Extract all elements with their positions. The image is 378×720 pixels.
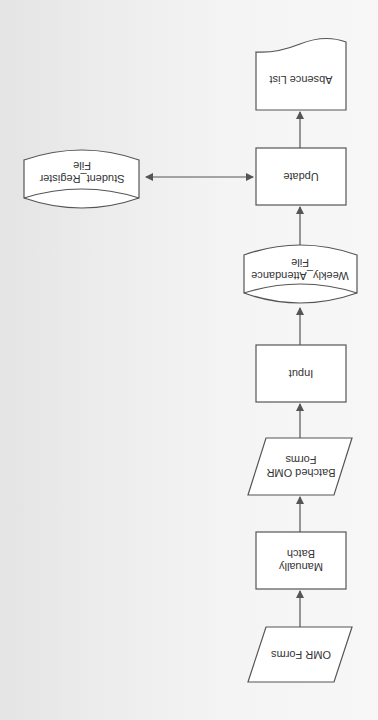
manually-batch-label: Manually Batch <box>270 532 332 589</box>
absence-list-label: Absence List <box>256 60 346 100</box>
flowchart-canvas: Absence List Update Student_Register Fil… <box>0 0 378 720</box>
student-register-label: Student_Register File <box>40 155 124 189</box>
input-label: Input <box>256 345 346 402</box>
batched-omr-forms-label: Batched OMR Forms <box>266 440 336 492</box>
weekly-attendance-label: Weekly_Attendance File <box>250 252 350 286</box>
update-label: Update <box>256 148 346 205</box>
omr-forms-label: OMR Forms <box>262 627 340 682</box>
